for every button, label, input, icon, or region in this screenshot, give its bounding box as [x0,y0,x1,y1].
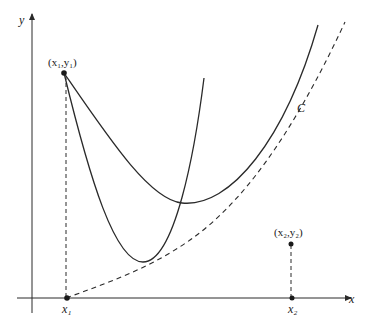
curve-c-label: C [297,101,306,115]
x-axis-label: x [348,292,355,306]
point-x1-y1 [61,70,67,76]
point-x1-on-axis [64,295,70,301]
point-x2-y2 [289,242,294,247]
point-x2-on-axis [290,296,295,301]
point-x2-y2-label: (x₂,y₂) [274,226,303,239]
y-axis-label: y [18,13,25,27]
narrow-curve [64,73,204,262]
x1-tick-label: x₁ [61,302,72,316]
wide-curve [64,25,318,203]
diagram-canvas: y x C (x₁,y₁) (x₂,y₂) x₁ x₂ [0,0,373,325]
x2-tick-label: x₂ [287,302,298,316]
point-x1-y1-label: (x₁,y₁) [48,56,77,69]
envelope-curve-c [66,22,345,298]
